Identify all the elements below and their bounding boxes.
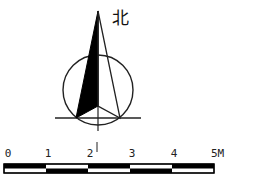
scale-bar <box>4 164 214 173</box>
scale-end-label: 5M <box>211 148 224 159</box>
scale-tick-0: 0 <box>5 148 12 159</box>
diagram-canvas <box>0 0 253 192</box>
north-arrow-filled-half <box>76 11 98 118</box>
scale-tick-3: 3 <box>129 148 136 159</box>
north-arrow-diagram: 北 0 1 2 3 4 5M <box>0 0 253 192</box>
north-label: 北 <box>112 10 129 27</box>
scale-tick-4: 4 <box>171 148 178 159</box>
scale-tick-2: 2 <box>87 148 94 159</box>
scale-tick-1: 1 <box>45 148 52 159</box>
